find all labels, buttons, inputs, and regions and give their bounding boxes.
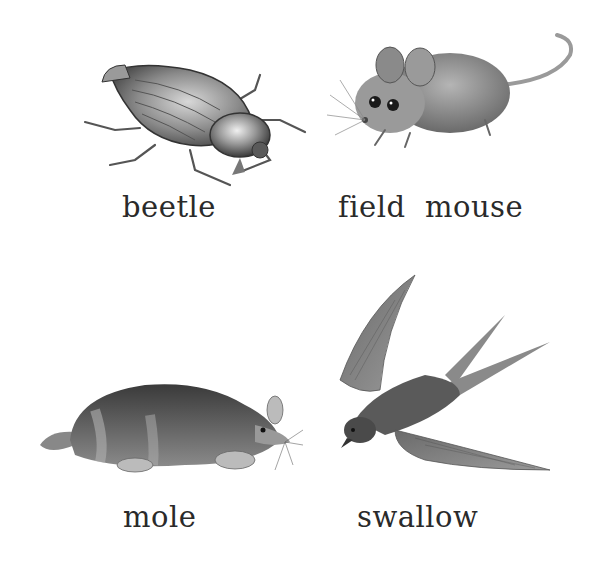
swallow-label: swallow: [357, 500, 478, 534]
mole-illustration: [35, 370, 305, 480]
swallow-illustration: [325, 270, 555, 475]
field-mouse-label: field mouse: [338, 190, 523, 224]
beetle-illustration: [80, 50, 320, 190]
field-mouse-icon: [325, 25, 580, 155]
mole-icon: [35, 370, 305, 480]
swallow-icon: [325, 270, 555, 475]
mole-label: mole: [123, 500, 196, 534]
beetle-icon: [80, 50, 320, 190]
field-mouse-illustration: [325, 25, 580, 155]
beetle-label: beetle: [122, 190, 216, 224]
